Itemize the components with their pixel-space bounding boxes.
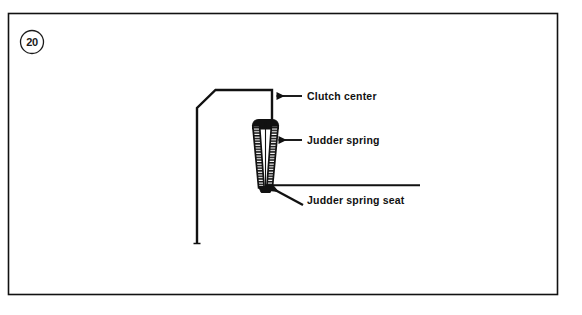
callout-label-clutch-center: Clutch center [307, 90, 377, 102]
figure-number-badge: 20 [21, 31, 44, 54]
figure-frame [9, 14, 558, 295]
diagram-canvas: 20 [0, 0, 582, 315]
judder-spring-bottom-tip [259, 187, 273, 193]
badge-number: 20 [26, 36, 38, 48]
callout-label-judder-spring: Judder spring [307, 134, 380, 146]
callout-label-judder-spring-seat: Judder spring seat [307, 194, 405, 206]
technical-diagram-figure: 20 [0, 0, 582, 315]
